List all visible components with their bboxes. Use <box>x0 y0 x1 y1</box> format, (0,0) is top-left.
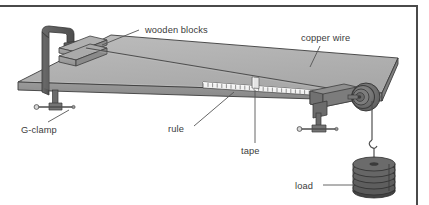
label-copper-wire: copper wire <box>301 33 350 43</box>
label-tape: tape <box>241 146 260 156</box>
label-load: load <box>295 181 313 191</box>
apparatus-diagram: wooden blocks copper wire G-clamp rule t… <box>0 0 429 205</box>
load-discs <box>353 157 395 198</box>
leader-g-clamp <box>48 110 69 122</box>
label-g-clamp: G-clamp <box>21 125 57 135</box>
clamp-screw-right <box>297 113 338 132</box>
label-wooden-blocks: wooden blocks <box>144 25 208 35</box>
tape-marker <box>252 77 259 89</box>
figure-frame: wooden blocks copper wire G-clamp rule t… <box>0 0 429 205</box>
leader-rule <box>194 92 234 126</box>
clamp-screw-left <box>34 90 75 110</box>
load-assembly <box>353 101 395 198</box>
label-rule: rule <box>168 124 184 134</box>
